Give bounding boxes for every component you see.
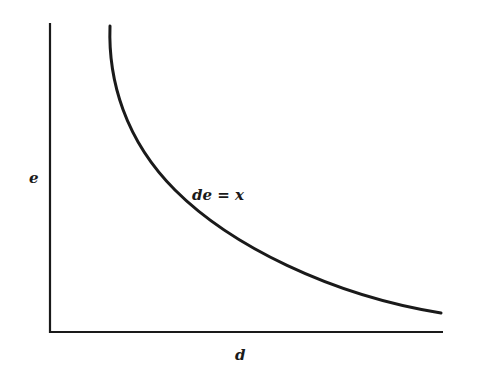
diagram-canvas: e d de = x bbox=[0, 0, 479, 377]
x-axis-label: d bbox=[235, 348, 246, 363]
hyperbola-curve bbox=[110, 26, 441, 313]
curve-label: de = x bbox=[192, 188, 244, 203]
y-axis-label: e bbox=[29, 171, 39, 186]
